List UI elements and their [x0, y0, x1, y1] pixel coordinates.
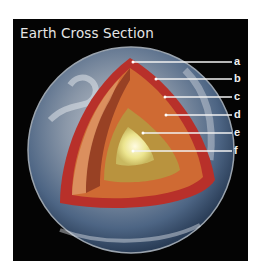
- label-c: c: [234, 91, 240, 102]
- label-a: a: [234, 56, 240, 67]
- earth-cross-section-illustration: [13, 19, 248, 261]
- label-d: d: [234, 109, 241, 120]
- diagram-title: Earth Cross Section: [20, 25, 154, 41]
- label-b: b: [234, 73, 241, 84]
- label-e: e: [234, 127, 240, 138]
- label-f: f: [234, 145, 238, 156]
- diagram-panel: Earth Cross Section a b c d e f: [13, 19, 248, 261]
